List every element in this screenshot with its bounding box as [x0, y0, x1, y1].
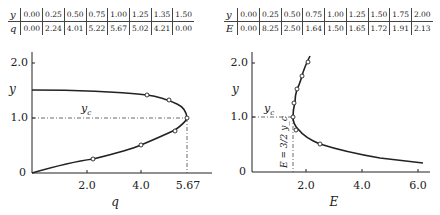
y-axis-label: y: [8, 82, 16, 96]
emin-annotation: E = 3/2 y_c: [279, 116, 290, 169]
y-tick-0: 0: [239, 165, 246, 178]
x-tick-6: 6.0: [409, 179, 427, 192]
y-tick-1: 1.0: [11, 111, 29, 124]
left-chart: 0 1.0 2.0 y yc 2.0 4.0 5.67 q: [8, 52, 212, 209]
data-points: [291, 60, 322, 146]
x-axis-label: E: [329, 195, 339, 209]
y-tick-2: 2.0: [231, 56, 249, 69]
x-tick-2: 2.0: [78, 179, 96, 192]
y-tick-1: 1.0: [231, 110, 249, 123]
y-tick-0: 0: [19, 166, 26, 179]
x-tick-567: 5.67: [176, 179, 201, 192]
q-curve: [32, 90, 187, 173]
yc-label: yc: [263, 102, 274, 117]
x-axis-label: q: [111, 195, 119, 209]
right-chart: 0 1.0 2.0 y yc E = 3/2 y_c 2.0 4.0 6.0 E: [231, 52, 431, 209]
y-axis-label: y: [231, 82, 239, 96]
y-tick-2: 2.0: [11, 56, 29, 69]
e-curve: [293, 56, 423, 163]
charts: 0 1.0 2.0 y yc 2.0 4.0 5.67 q 0 1.0 2: [0, 0, 440, 215]
yc-label: yc: [80, 102, 91, 117]
x-tick-2: 2.0: [297, 179, 315, 192]
x-tick-4: 4.0: [132, 179, 150, 192]
x-tick-4: 4.0: [353, 179, 371, 192]
